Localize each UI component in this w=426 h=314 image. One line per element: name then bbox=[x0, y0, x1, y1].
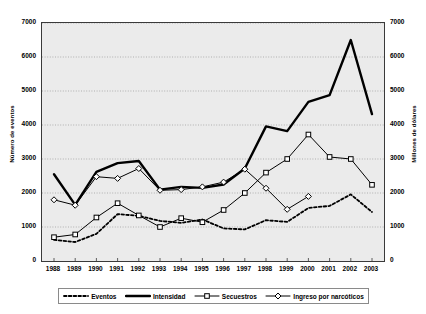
series-2-point-8 bbox=[221, 208, 226, 213]
series-2-point-11 bbox=[285, 157, 290, 162]
legend-label-2: Secuestros bbox=[222, 293, 257, 300]
series-2-point-5 bbox=[158, 225, 163, 230]
y-tick-right-3000: 3000 bbox=[390, 154, 420, 161]
y-tick-right-1000: 1000 bbox=[390, 222, 420, 229]
diamond-marker-line-swatch bbox=[265, 292, 291, 300]
series-3-point-3 bbox=[115, 175, 121, 181]
y-tick-left-4000: 4000 bbox=[6, 120, 36, 127]
thick-line-swatch bbox=[125, 292, 151, 300]
y-tick-right-2000: 2000 bbox=[390, 188, 420, 195]
series-2-point-13 bbox=[327, 155, 332, 160]
y-tick-left-5000: 5000 bbox=[6, 86, 36, 93]
legend-item-3: Ingreso por narcóticos bbox=[265, 292, 363, 300]
y-tick-right-5000: 5000 bbox=[390, 86, 420, 93]
series-2-point-1 bbox=[73, 232, 78, 237]
chart-figure: Número de eventos Millones de dólares 01… bbox=[0, 0, 426, 314]
y-tick-left-2000: 2000 bbox=[6, 188, 36, 195]
legend-label-1: Intensidad bbox=[153, 293, 186, 300]
series-2-point-4 bbox=[137, 213, 142, 218]
series-2-point-7 bbox=[200, 220, 205, 225]
y-tick-left-0: 0 bbox=[6, 256, 36, 263]
series-2-point-3 bbox=[115, 201, 120, 206]
y-tick-left-1000: 1000 bbox=[6, 222, 36, 229]
square-marker-line-swatch bbox=[194, 292, 220, 300]
series-line-1 bbox=[54, 40, 372, 205]
y-tick-right-7000: 7000 bbox=[390, 18, 420, 25]
y-tick-right-0: 0 bbox=[390, 256, 420, 263]
plot-area bbox=[41, 22, 385, 262]
series-2-point-9 bbox=[243, 191, 248, 196]
legend-label-0: Eventos bbox=[91, 293, 116, 300]
series-2-point-10 bbox=[264, 170, 269, 175]
series-2-point-6 bbox=[179, 216, 184, 221]
y-tick-right-6000: 6000 bbox=[390, 52, 420, 59]
series-2-point-2 bbox=[94, 215, 99, 220]
y-tick-right-4000: 4000 bbox=[390, 120, 420, 127]
x-tick-2003: 2003 bbox=[356, 265, 386, 272]
series-2-point-12 bbox=[306, 132, 311, 137]
series-2-point-0 bbox=[52, 235, 57, 240]
y-tick-left-3000: 3000 bbox=[6, 154, 36, 161]
y-tick-left-6000: 6000 bbox=[6, 52, 36, 59]
series-3-point-12 bbox=[305, 193, 311, 199]
dotted-line-swatch bbox=[63, 292, 89, 300]
y-tick-left-7000: 7000 bbox=[6, 18, 36, 25]
series-2-point-14 bbox=[349, 157, 354, 162]
chart-legend: EventosIntensidadSecuestrosIngreso por n… bbox=[58, 288, 369, 304]
legend-item-2: Secuestros bbox=[194, 292, 257, 300]
legend-item-0: Eventos bbox=[63, 292, 116, 300]
plot-canvas bbox=[42, 23, 384, 261]
legend-item-1: Intensidad bbox=[125, 292, 186, 300]
series-line-0 bbox=[54, 194, 372, 242]
series-2-point-15 bbox=[370, 183, 375, 188]
series-3-point-0 bbox=[51, 197, 57, 203]
legend-label-3: Ingreso por narcóticos bbox=[293, 293, 363, 300]
